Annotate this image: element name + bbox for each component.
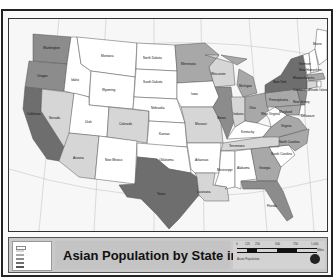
svg-text:North Carolina: North Carolina	[279, 140, 300, 144]
svg-text:Rhode Island: Rhode Island	[309, 88, 327, 92]
svg-text:California: California	[27, 112, 41, 116]
title-panel: Asian Population by State in 2007	[55, 241, 230, 269]
svg-text:Indiana: Indiana	[233, 112, 244, 116]
svg-text:New York: New York	[273, 80, 287, 84]
svg-text:Maryland: Maryland	[279, 110, 292, 114]
svg-text:Alabama: Alabama	[237, 166, 250, 170]
svg-text:Oklahoma: Oklahoma	[159, 158, 174, 162]
map-canvas: Washington Oregon California Nevada Idah…	[8, 18, 328, 232]
agency-logo-icon	[310, 254, 320, 264]
svg-text:Vermont: Vermont	[299, 62, 311, 66]
svg-text:Washington: Washington	[43, 46, 60, 50]
svg-text:Kansas: Kansas	[159, 132, 170, 136]
svg-text:Nevada: Nevada	[49, 116, 60, 120]
us-map: Washington Oregon California Nevada Idah…	[9, 19, 327, 231]
svg-text:Maine: Maine	[313, 42, 322, 46]
svg-text:South Carolina: South Carolina	[271, 152, 292, 156]
svg-text:Minnesota: Minnesota	[181, 62, 196, 66]
svg-text:New Jersey: New Jersey	[293, 100, 310, 104]
svg-text:Kentucky: Kentucky	[241, 130, 255, 134]
svg-text:Delaware: Delaware	[301, 114, 315, 118]
svg-text:Montana: Montana	[101, 54, 114, 58]
svg-text:Missouri: Missouri	[195, 122, 207, 126]
svg-text:Ohio: Ohio	[249, 106, 256, 110]
svg-text:Utah: Utah	[85, 120, 92, 124]
svg-text:Iowa: Iowa	[191, 92, 198, 96]
state-iowa	[177, 81, 219, 107]
svg-text:Colorado: Colorado	[119, 122, 132, 126]
svg-text:Georgia: Georgia	[259, 166, 271, 170]
scale-panel: 0 125 250 500 750 1,000 Miles Asian Popu…	[233, 241, 325, 269]
legend-bar: Asian Population by State in 2007 0 125 …	[8, 237, 328, 273]
state-rhode-island	[317, 81, 321, 87]
svg-text:Illinois: Illinois	[217, 116, 226, 120]
svg-text:Michigan: Michigan	[239, 84, 252, 88]
svg-text:Texas: Texas	[157, 192, 166, 196]
svg-text:Connecticut: Connecticut	[293, 88, 310, 92]
svg-text:Arkansas: Arkansas	[195, 158, 209, 162]
svg-text:Idaho: Idaho	[71, 78, 79, 82]
legend-key	[12, 241, 52, 271]
svg-text:New Mexico: New Mexico	[105, 158, 123, 162]
svg-text:North Dakota: North Dakota	[143, 56, 162, 60]
svg-text:Oregon: Oregon	[37, 74, 48, 78]
svg-text:Tennessee: Tennessee	[229, 144, 245, 148]
svg-text:Pennsylvania: Pennsylvania	[269, 98, 288, 102]
svg-text:West Virginia: West Virginia	[261, 112, 280, 116]
svg-text:South Dakota: South Dakota	[143, 80, 163, 84]
svg-text:Louisiana: Louisiana	[197, 190, 211, 194]
svg-text:Florida: Florida	[267, 204, 277, 208]
svg-text:Wisconsin: Wisconsin	[211, 72, 226, 76]
state-south-dakota	[134, 69, 177, 99]
svg-text:Wyoming: Wyoming	[102, 88, 115, 92]
svg-text:Virginia: Virginia	[281, 124, 292, 128]
legend-title: Asian Population	[237, 257, 260, 261]
svg-text:Nebraska: Nebraska	[151, 106, 165, 110]
svg-text:Mississippi: Mississippi	[217, 168, 233, 172]
svg-text:Massachusetts: Massachusetts	[293, 76, 315, 80]
svg-text:Arizona: Arizona	[73, 156, 84, 160]
svg-text:New Hampshire: New Hampshire	[299, 68, 322, 72]
